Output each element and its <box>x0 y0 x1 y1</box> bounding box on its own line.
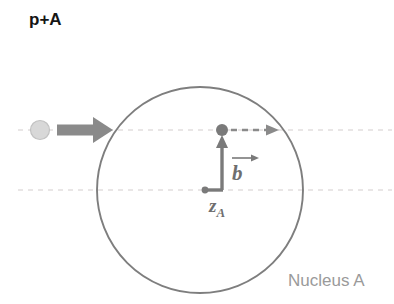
longitudinal-coordinate-subscript: A <box>216 205 225 220</box>
longitudinal-coordinate-segment <box>202 187 223 194</box>
longitudinal-coordinate-label: zA <box>209 196 225 219</box>
projectile-proton-icon <box>31 121 50 140</box>
nucleus-caption: Nucleus A <box>288 272 365 289</box>
page-title: p+A <box>29 11 62 28</box>
impact-parameter-arrow-icon <box>216 135 228 190</box>
impact-parameter-label: b <box>232 163 243 184</box>
figure-canvas: p+A b zA Nucleus A <box>0 0 394 304</box>
beam-direction-arrow-icon <box>57 117 113 143</box>
interaction-point-dot <box>216 124 228 136</box>
physics-diagram <box>0 0 394 304</box>
